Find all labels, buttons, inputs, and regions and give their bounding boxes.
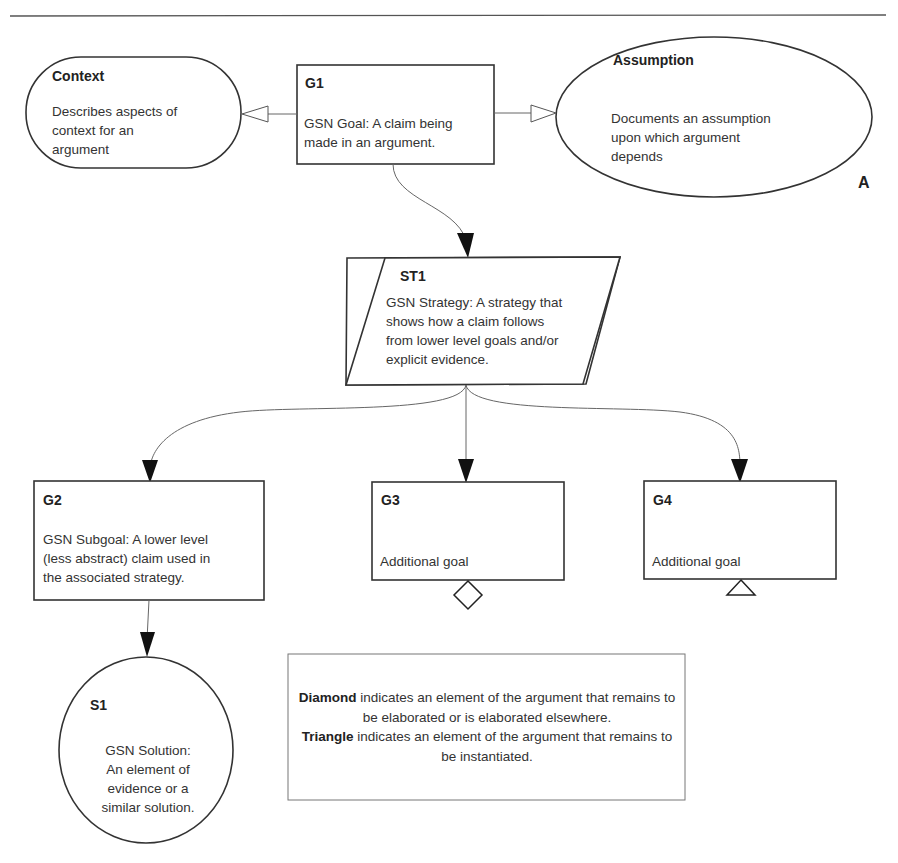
triangle-uninstantiated-icon: [727, 580, 755, 595]
s1-line: similar solution.: [86, 798, 210, 817]
st1-line: GSN Strategy: A strategy that: [386, 293, 616, 312]
s1-title: S1: [90, 697, 107, 713]
filled-arrowhead-icon: [142, 460, 158, 483]
s1-description: GSN Solution: An element of evidence or …: [86, 741, 210, 817]
assumption-title: Assumption: [613, 52, 694, 68]
assumption-line: upon which argument: [611, 128, 811, 147]
assumption-line: Documents an assumption: [611, 109, 811, 128]
legend-triangle-desc-cont: be instantiated.: [289, 747, 685, 767]
legend-triangle-term: Triangle: [302, 729, 354, 744]
legend-diamond-term: Diamond: [299, 690, 357, 705]
g1-line: made in an argument.: [304, 133, 492, 152]
filled-arrowhead-icon: [140, 632, 155, 657]
edge-st1-g2: [150, 385, 466, 470]
context-line: Describes aspects of: [52, 102, 232, 121]
g1-title: G1: [305, 75, 324, 91]
g2-line: GSN Subgoal: A lower level: [43, 530, 263, 549]
filled-arrowhead-icon: [457, 233, 474, 258]
legend-triangle-desc: indicates an element of the argument tha…: [357, 729, 672, 744]
legend-triangle-line: Triangle indicates an element of the arg…: [289, 727, 685, 747]
g2-line: (less abstract) claim used in: [43, 549, 263, 568]
g4-description: Additional goal: [652, 552, 741, 571]
context-line: argument: [52, 140, 232, 159]
legend-diamond-line: Diamond indicates an element of the argu…: [289, 688, 685, 708]
s1-line: An element of: [86, 760, 210, 779]
s1-line: evidence or a: [86, 779, 210, 798]
g2-title: G2: [43, 492, 62, 508]
filled-arrowhead-icon: [731, 459, 748, 483]
legend-text: Diamond indicates an element of the argu…: [289, 688, 685, 766]
st1-description: GSN Strategy: A strategy that shows how …: [386, 293, 616, 369]
g3-title: G3: [381, 492, 400, 508]
assumption-description: Documents an assumption upon which argum…: [611, 109, 811, 166]
st1-line: from lower level goals and/or: [386, 331, 616, 350]
st1-title: ST1: [400, 268, 426, 284]
s1-line: GSN Solution:: [86, 741, 210, 760]
legend-diamond-desc: indicates an element of the argument tha…: [360, 690, 675, 705]
hollow-arrowhead-icon: [531, 105, 556, 122]
st1-line: shows how a claim follows: [386, 312, 616, 331]
context-line: context for an: [52, 121, 232, 140]
g4-title: G4: [653, 492, 672, 508]
st1-line: explicit evidence.: [386, 350, 616, 369]
g1-line: GSN Goal: A claim being: [304, 114, 492, 133]
g1-description: GSN Goal: A claim being made in an argum…: [304, 114, 492, 152]
context-title: Context: [52, 68, 104, 84]
context-description: Describes aspects of context for an argu…: [52, 102, 232, 159]
assumption-line: depends: [611, 147, 811, 166]
filled-arrowhead-icon: [458, 459, 474, 483]
corner-label-a: A: [858, 174, 870, 192]
legend-diamond-desc-cont: be elaborated or is elaborated elsewhere…: [289, 708, 685, 728]
diamond-undeveloped-icon: [454, 581, 482, 609]
edge-g1-st1: [393, 164, 466, 240]
hollow-arrowhead-icon: [242, 106, 268, 122]
top-rule: [10, 15, 886, 16]
edge-st1-g4: [466, 385, 740, 468]
g3-description: Additional goal: [380, 552, 469, 571]
g2-line: the associated strategy.: [43, 568, 263, 587]
g2-description: GSN Subgoal: A lower level (less abstrac…: [43, 530, 263, 587]
